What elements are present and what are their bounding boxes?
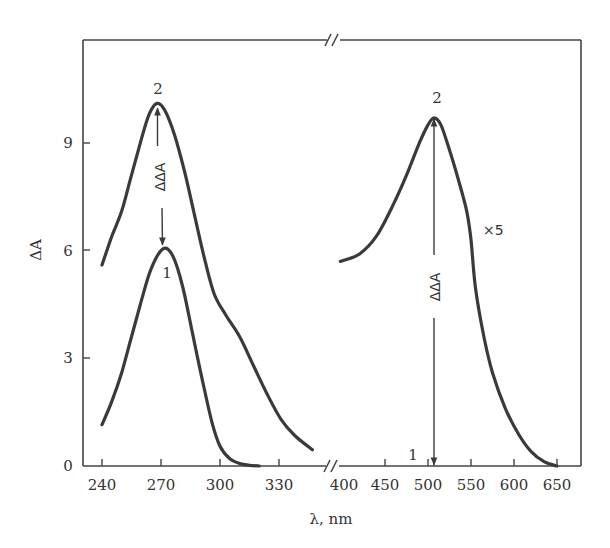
y-axis: 0 3 6 9 ΔA	[27, 134, 90, 475]
curves	[102, 103, 557, 466]
x-tick-label: 650	[543, 476, 572, 494]
delta-delta-arrow-lower	[162, 208, 163, 245]
x-tick-label: 450	[371, 476, 400, 494]
delta-delta-a-label: ΔΔA	[152, 162, 168, 191]
curve-label-1: 1	[162, 264, 172, 282]
scale-factor-label: ×5	[483, 222, 504, 238]
y-tick-label: 9	[63, 134, 73, 152]
x-tick-label: 330	[265, 476, 294, 494]
x-tick-label: 550	[457, 476, 486, 494]
y-tick-label: 0	[63, 457, 73, 475]
curve-1-uv	[102, 248, 259, 466]
x-tick-label: 300	[206, 476, 235, 494]
x-tick-label: 500	[414, 476, 443, 494]
curve-label-2: 2	[432, 89, 442, 107]
x-tick-label: 600	[500, 476, 529, 494]
curve-2-visible	[340, 118, 557, 466]
x-tick-label: 240	[88, 476, 117, 494]
axis-break-icon	[324, 34, 338, 472]
y-tick-label: 3	[63, 349, 73, 367]
x-axis-left: 240 270 300 330	[88, 459, 294, 494]
y-axis-title: ΔA	[27, 239, 45, 261]
delta-delta-a-label: ΔΔA	[427, 272, 443, 301]
x-axis-title: λ, nm	[310, 510, 353, 528]
curve-label-2: 2	[153, 80, 163, 98]
x-tick-label: 400	[330, 476, 359, 494]
x-tick-label: 270	[147, 476, 176, 494]
right-annotations: 2 1 ×5 ΔΔA	[408, 89, 503, 465]
y-tick-label: 6	[63, 242, 73, 260]
x-axis-right: 400 450 500 550 600 650 λ, nm	[310, 459, 572, 528]
curve-label-1: 1	[408, 446, 418, 464]
absorbance-difference-chart: 0 3 6 9 ΔA 240 270 300 330 400 450 500 5…	[0, 0, 610, 548]
